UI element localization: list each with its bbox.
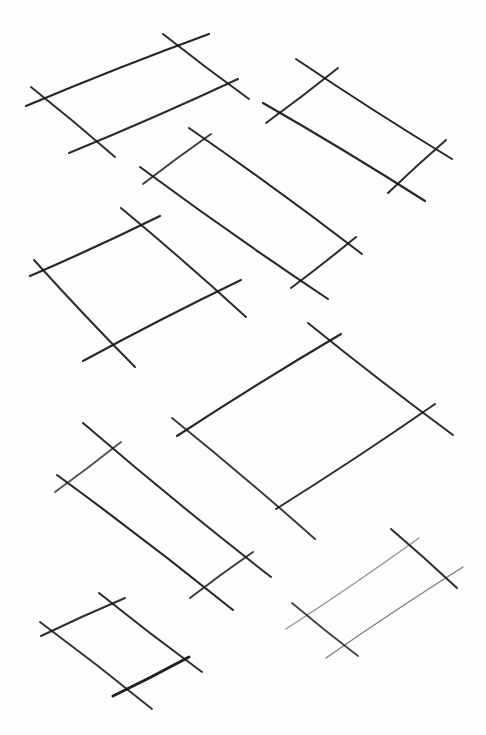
pencil-stroke <box>57 475 233 610</box>
pencil-stroke <box>83 423 271 577</box>
pencil-stroke <box>291 237 356 288</box>
pencil-stroke <box>292 603 358 656</box>
pencil-stroke <box>69 79 238 153</box>
pencil-stroke <box>140 167 328 299</box>
pencil-stroke <box>391 529 457 588</box>
pencil-stroke <box>143 134 211 184</box>
lower-left-long-parallelogram <box>55 423 271 610</box>
pencil-stroke <box>177 334 341 436</box>
pencil-stroke <box>276 404 435 509</box>
pencil-stroke <box>190 552 253 598</box>
bottom-left-small-square <box>40 593 202 709</box>
pencil-stroke <box>34 260 135 367</box>
pencil-stroke <box>121 208 246 317</box>
pencil-stroke <box>26 34 209 106</box>
center-large-parallelogram <box>172 323 453 539</box>
pencil-stroke <box>55 442 121 492</box>
bottom-right-faint-parallelogram <box>286 529 463 658</box>
pencil-stroke <box>113 657 189 696</box>
top-left-parallelogram <box>26 34 249 157</box>
top-right-parallelogram <box>263 59 452 201</box>
pencil-stroke <box>388 140 446 193</box>
left-square <box>30 208 246 367</box>
pencil-stroke <box>31 87 115 157</box>
sketch-canvas <box>0 0 486 735</box>
middle-long-parallelogram <box>140 128 362 299</box>
pencil-stroke <box>163 34 249 99</box>
pencil-stroke <box>99 593 202 672</box>
pencil-stroke <box>40 622 152 709</box>
pencil-stroke <box>266 68 338 123</box>
pencil-stroke <box>326 567 463 658</box>
pencil-sketch-drawing <box>0 0 486 735</box>
pencil-stroke <box>296 59 452 159</box>
pencil-stroke <box>308 323 453 435</box>
pencil-stroke <box>172 418 315 539</box>
pencil-stroke <box>263 103 425 201</box>
